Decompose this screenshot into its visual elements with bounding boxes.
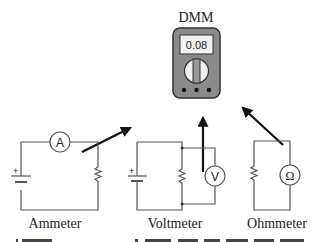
ammeter-label: Ammeter bbox=[29, 216, 82, 231]
dmm-jack-3 bbox=[207, 88, 211, 92]
dmm-dial-knob bbox=[193, 59, 200, 83]
dmm-jack-1 bbox=[182, 88, 186, 92]
ohmmeter-symbol: Ω bbox=[286, 169, 295, 183]
arrow-ohmmeter bbox=[243, 108, 283, 145]
ohmmeter-label: Ohmmeter bbox=[247, 216, 307, 231]
dmm-diagram: DMM 0.08 + A Ammeter + V Vo bbox=[0, 0, 316, 242]
voltmeter-node-bottom bbox=[181, 203, 184, 206]
dmm-jack-2 bbox=[194, 88, 198, 92]
voltmeter-node-top bbox=[181, 147, 184, 150]
battery-plus-sign: + bbox=[13, 166, 18, 176]
voltmeter-label: Voltmeter bbox=[148, 216, 203, 231]
ammeter-symbol: A bbox=[56, 136, 64, 150]
battery-plus-sign-2: + bbox=[129, 166, 134, 176]
dmm-display-value: 0.08 bbox=[186, 39, 207, 51]
dmm-title: DMM bbox=[178, 10, 214, 25]
voltmeter-symbol: V bbox=[211, 170, 219, 184]
dmm-device: DMM 0.08 bbox=[173, 10, 220, 98]
arrow-ammeter bbox=[82, 128, 130, 152]
